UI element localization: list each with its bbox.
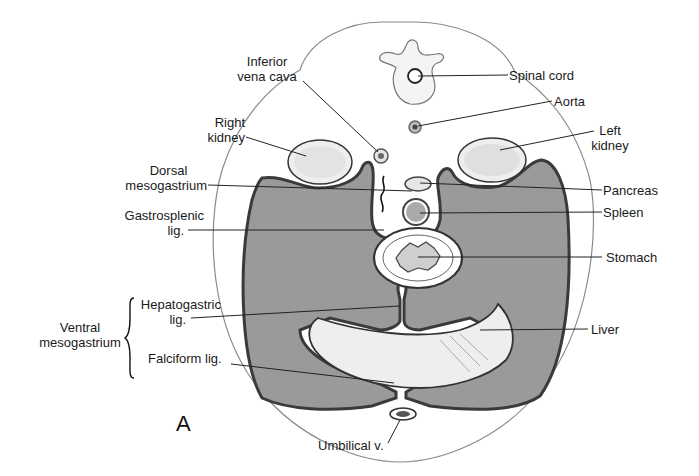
label-line: Hepatogastric: [135, 297, 221, 312]
label-umbilical-v: Umbilical v.: [318, 438, 384, 453]
label-right-kidney: Right kidney: [185, 115, 245, 145]
label-line: vena cava: [232, 69, 302, 84]
label-liver: Liver: [591, 322, 619, 337]
label-dorsal-mesogastrium: Dorsal mesogastrium: [110, 163, 207, 193]
panel-letter: A: [176, 411, 191, 437]
label-gastrosplenic-lig: Gastrosplenic lig.: [100, 208, 204, 238]
label-inferior-vena-cava: Inferior vena cava: [232, 54, 302, 84]
label-stomach: Stomach: [606, 250, 657, 265]
label-hepatogastric-lig: Hepatogastric lig.: [135, 297, 221, 327]
label-spleen: Spleen: [603, 205, 643, 220]
label-aorta: Aorta: [554, 94, 585, 109]
label-line: mesogastrium: [110, 178, 207, 193]
label-left-kidney: Left kidney: [588, 123, 632, 153]
label-line: lig.: [135, 312, 221, 327]
ventral-mesogastrium-brace: [125, 298, 134, 378]
label-ventral-mesogastrium: Ventral mesogastrium: [34, 320, 126, 350]
label-falciform-lig: Falciform lig.: [148, 351, 222, 366]
label-spinal-cord: Spinal cord: [509, 68, 574, 83]
label-line: Inferior: [232, 54, 302, 69]
label-line: kidney: [588, 138, 632, 153]
label-line: lig.: [100, 223, 204, 238]
label-line: Right: [185, 115, 245, 130]
label-line: mesogastrium: [34, 335, 126, 350]
label-pancreas: Pancreas: [603, 183, 658, 198]
pancreas-shape: [405, 177, 431, 191]
label-line: kidney: [185, 130, 245, 145]
label-line: Dorsal: [110, 163, 207, 178]
embryo-cross-section-diagram: [0, 0, 699, 476]
label-line: Left: [588, 123, 632, 138]
label-line: Ventral: [34, 320, 126, 335]
label-line: Gastrosplenic: [100, 208, 204, 223]
